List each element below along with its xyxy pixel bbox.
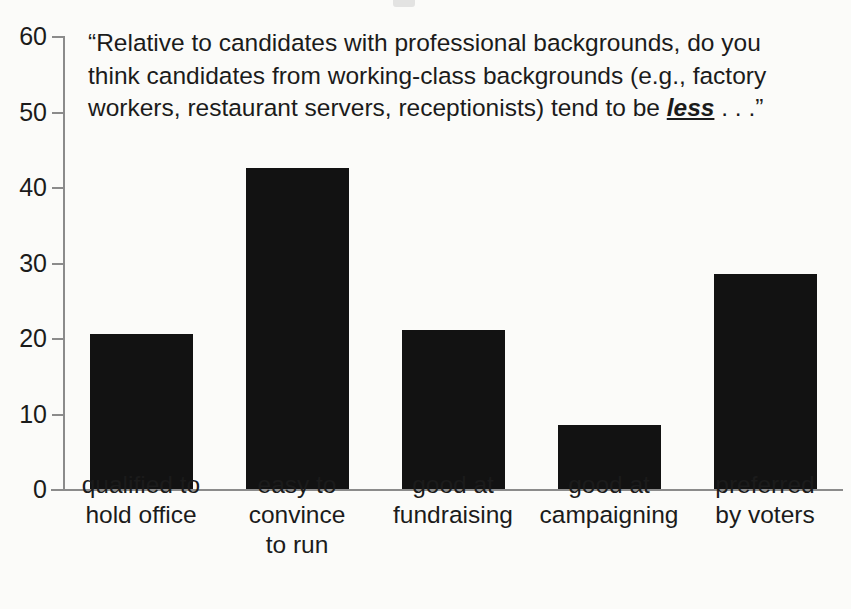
category-label-line: by voters bbox=[687, 500, 843, 530]
category-label-line: campaigning bbox=[531, 500, 687, 530]
bar-chart-figure: “Relative to candidates with professiona… bbox=[0, 0, 851, 609]
y-tick-label: 60 bbox=[19, 22, 47, 51]
y-tick-mark bbox=[52, 112, 63, 114]
cropped-title-artifact bbox=[393, 0, 415, 7]
category-label-line: hold office bbox=[63, 500, 219, 530]
plot-area: 0102030405060 bbox=[63, 36, 843, 489]
y-axis-line bbox=[63, 36, 65, 489]
y-tick-label: 40 bbox=[19, 173, 47, 202]
category-label-line: qualified to bbox=[63, 470, 219, 500]
category-label-line: good at bbox=[375, 470, 531, 500]
category-label: qualified tohold office bbox=[63, 470, 219, 530]
y-tick-mark bbox=[52, 414, 63, 416]
category-label: preferredby voters bbox=[687, 470, 843, 530]
bar bbox=[402, 330, 505, 489]
category-label-line: easy to bbox=[219, 470, 375, 500]
category-label-line: convince bbox=[219, 500, 375, 530]
y-tick-mark bbox=[52, 263, 63, 265]
y-tick-label: 30 bbox=[19, 248, 47, 277]
category-label: good atcampaigning bbox=[531, 470, 687, 530]
y-tick-mark bbox=[52, 338, 63, 340]
bar bbox=[246, 168, 349, 489]
y-tick-mark bbox=[52, 36, 63, 38]
category-label-line: good at bbox=[531, 470, 687, 500]
y-tick-label: 10 bbox=[19, 399, 47, 428]
y-tick-label: 20 bbox=[19, 324, 47, 353]
y-tick-mark bbox=[52, 489, 63, 491]
category-label: good atfundraising bbox=[375, 470, 531, 530]
y-tick-label: 50 bbox=[19, 97, 47, 126]
bar bbox=[90, 334, 193, 489]
category-label-line: fundraising bbox=[375, 500, 531, 530]
bar bbox=[714, 274, 817, 489]
category-label-line: to run bbox=[219, 530, 375, 560]
y-tick-mark bbox=[52, 187, 63, 189]
y-tick-label: 0 bbox=[33, 475, 47, 504]
category-label-line: preferred bbox=[687, 470, 843, 500]
category-label: easy toconvinceto run bbox=[219, 470, 375, 560]
